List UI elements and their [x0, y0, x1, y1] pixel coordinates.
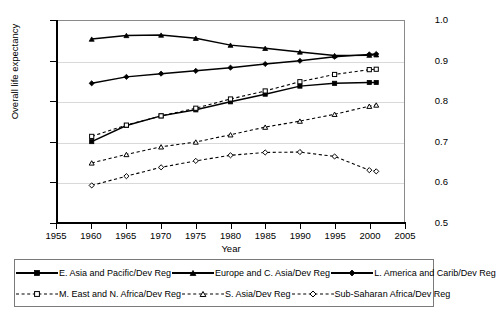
data-point [228, 97, 232, 101]
series-layer [57, 21, 404, 222]
y-tick-label-0.6: 0.6 [402, 177, 448, 187]
data-point [228, 65, 233, 70]
data-point [193, 68, 198, 73]
legend-item[interactable]: S. Asia/Dev Reg [181, 283, 291, 304]
data-point [159, 114, 163, 118]
legend-label: S. Asia/Dev Reg [225, 289, 291, 299]
chart-legend: E. Asia and Pacific/Dev RegEurope and C.… [14, 259, 434, 307]
data-point [124, 74, 129, 79]
data-point [367, 68, 371, 72]
x-tick-mark-1985 [265, 224, 266, 229]
legend-swatch [15, 287, 59, 301]
series-line-1 [92, 35, 377, 56]
legend-item[interactable]: L. America and Carib/Dev Reg [330, 262, 496, 283]
data-point [90, 134, 94, 138]
legend-swatch [330, 266, 374, 280]
x-tick-mark-1965 [126, 224, 127, 229]
data-point [367, 104, 372, 108]
legend-label: Sub-Saharan Africa/Dev Reg [335, 289, 451, 299]
data-point [297, 58, 302, 63]
data-point [367, 168, 372, 173]
data-point [263, 89, 267, 93]
data-point [374, 67, 378, 71]
data-point [374, 80, 378, 84]
data-point [374, 103, 379, 107]
x-tick-label-2005: 2005 [385, 231, 425, 241]
x-tick-mark-1990 [300, 224, 301, 229]
data-point [367, 80, 371, 84]
data-point [332, 154, 337, 159]
series-5 [89, 149, 379, 188]
legend-item[interactable]: Sub-Saharan Africa/Dev Reg [291, 283, 451, 304]
series-line-0 [92, 83, 377, 142]
y-axis-title: Overall life expectancy [9, 0, 20, 152]
data-point [89, 81, 94, 86]
x-tick-mark-1970 [161, 224, 162, 229]
data-point [89, 161, 94, 165]
x-tick-mark-1980 [231, 224, 232, 229]
data-point [333, 81, 337, 85]
data-point [159, 71, 164, 76]
legend-swatch [291, 287, 335, 301]
y-tick-label-0.7: 0.7 [402, 137, 448, 147]
data-point [228, 153, 233, 158]
legend-item[interactable]: M. East and N. Africa/Dev Reg [15, 283, 181, 304]
series-1 [89, 33, 379, 58]
legend-swatch [171, 266, 215, 280]
x-tick-mark-1960 [91, 224, 92, 229]
x-tick-mark-1955 [56, 224, 57, 229]
data-point [297, 149, 302, 154]
data-point [374, 169, 379, 174]
y-axis-line [56, 20, 58, 224]
x-tick-mark-2000 [370, 224, 371, 229]
legend-swatch [15, 266, 59, 280]
data-point [263, 150, 268, 155]
data-point [124, 152, 129, 156]
y-tick-label-0.8: 0.8 [402, 96, 448, 106]
data-point [228, 133, 233, 137]
legend-row: M. East and N. Africa/Dev RegS. Asia/Dev… [15, 283, 433, 304]
series-line-3 [92, 69, 377, 136]
legend-item[interactable]: Europe and C. Asia/Dev Reg [171, 262, 330, 283]
data-point [298, 80, 302, 84]
legend-label: E. Asia and Pacific/Dev Reg [59, 268, 171, 278]
y-tick-label-0.5: 0.5 [402, 218, 448, 228]
data-point [159, 165, 164, 170]
legend-row: E. Asia and Pacific/Dev RegEurope and C.… [15, 262, 433, 283]
data-point [89, 183, 94, 188]
legend-swatch [181, 287, 225, 301]
data-point [333, 72, 337, 76]
series-3 [90, 67, 379, 138]
y-tick-label-0.9: 0.9 [402, 56, 448, 66]
data-point [332, 112, 337, 116]
plot-area [56, 20, 405, 223]
x-tick-mark-1995 [335, 224, 336, 229]
legend-label: L. America and Carib/Dev Reg [374, 268, 496, 278]
legend-label: Europe and C. Asia/Dev Reg [215, 268, 330, 278]
data-point [193, 158, 198, 163]
data-point [194, 106, 198, 110]
data-point [298, 84, 302, 88]
y-tick-label-1.0: 1.0 [402, 15, 448, 25]
x-tick-mark-1975 [196, 224, 197, 229]
legend-label: M. East and N. Africa/Dev Reg [59, 289, 181, 299]
data-point [90, 140, 94, 144]
data-point [159, 145, 164, 149]
data-point [263, 61, 268, 66]
data-point [297, 119, 302, 123]
data-point [193, 140, 198, 144]
legend-item[interactable]: E. Asia and Pacific/Dev Reg [15, 262, 171, 283]
data-point [124, 174, 129, 179]
series-2 [89, 51, 379, 85]
x-axis-title: Year [161, 243, 301, 254]
data-point [263, 125, 268, 129]
x-tick-mark-2005 [405, 224, 406, 229]
data-point [124, 123, 128, 127]
